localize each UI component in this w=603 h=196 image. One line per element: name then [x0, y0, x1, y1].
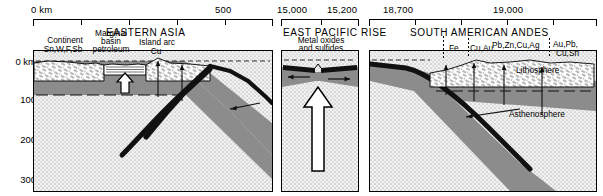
scale-label-right-panel-end: 19,000 [493, 4, 523, 15]
panel-eastern-asia [33, 50, 273, 192]
cross-section-south-american-andes [370, 51, 596, 191]
label-au-pb-2: Cu,Sn [556, 49, 579, 57]
panel-east-pacific-rise [281, 50, 359, 192]
scale-label-left-panel-end: 500 [215, 4, 231, 15]
scale-label-mid-panel-end: 15,200 [327, 4, 357, 15]
panel-title-south-american-andes: SOUTH AMERICAN ANDES [410, 27, 549, 38]
label-cu-au: Cu,Au [470, 44, 493, 52]
depth-tick-300: 300 [0, 174, 36, 185]
cross-section-east-pacific-rise [282, 51, 358, 191]
ruler-south-american-andes [369, 19, 597, 26]
scale-label-mid-panel-start: 15,000 [277, 4, 307, 15]
ruler-east-pacific-rise [281, 19, 359, 26]
ruler-eastern-asia [33, 19, 273, 26]
label-fe: Fe [449, 44, 459, 52]
leader-cu-au [468, 38, 469, 58]
depth-tick-0: 0 km [0, 56, 36, 67]
panel-south-american-andes [369, 50, 597, 192]
scale-label-left-panel-start: 0 km [31, 4, 52, 15]
cross-section-eastern-asia [34, 51, 272, 191]
label-island-arc-minerals: Cu [140, 47, 172, 55]
depth-tick-100: 100 [0, 94, 36, 105]
label-asthenosphere: Asthenosphere [509, 110, 565, 118]
label-pb-zn-cu-ag: Pb,Zn,Cu,Ag [492, 41, 540, 49]
leader-fe [443, 36, 444, 58]
figure-root: 0 km 100 200 300 0 km 500 15,000 15,200 … [0, 0, 603, 196]
scale-label-right-panel-start: 18,700 [383, 4, 413, 15]
label-and-sulfides: and sulfides [287, 44, 355, 52]
leader-au-pb [549, 38, 550, 56]
depth-tick-200: 200 [0, 134, 36, 145]
label-lithosphere: Lithosphere [516, 66, 559, 74]
